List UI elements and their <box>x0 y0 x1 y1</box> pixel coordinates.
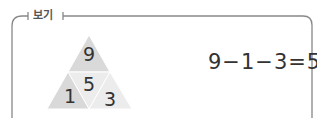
triangle-top-number: 9 <box>83 43 95 65</box>
triangle-middle-number: 5 <box>83 73 95 95</box>
equation-text: 9−1−3=5 <box>208 50 317 74</box>
example-label: 보기 <box>31 6 55 22</box>
triangle-bottom-right-number: 3 <box>104 88 116 110</box>
triangle-bottom-left-number: 1 <box>64 85 76 107</box>
